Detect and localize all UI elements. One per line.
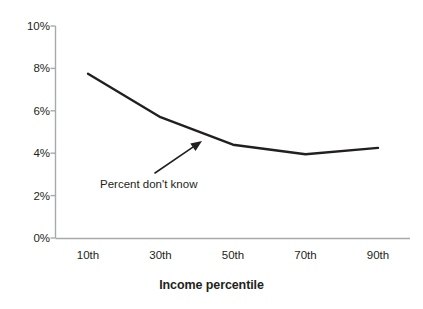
y-axis-tick-label: 4% <box>4 147 50 159</box>
y-axis-tick-label: 2% <box>4 190 50 202</box>
chart-container: 10%8%6%4%2%0% 10th30th50th70th90th Perce… <box>0 0 423 309</box>
x-axis-tick-label: 10th <box>77 248 99 262</box>
annotation-label-percent-dont-know: Percent don't know <box>100 177 197 191</box>
y-axis-tick-label: 6% <box>4 105 50 117</box>
x-axis-tick-label: 90th <box>367 248 389 262</box>
y-axis-tick-label: 8% <box>4 62 50 74</box>
x-axis-tick-label: 30th <box>149 248 171 262</box>
annotation-arrow-icon <box>155 141 202 173</box>
y-axis-tick-label: 0% <box>4 232 50 244</box>
y-axis-tick-marks <box>51 26 56 238</box>
x-axis-title: Income percentile <box>0 278 423 292</box>
x-axis-tick-label: 50th <box>222 248 244 262</box>
y-axis-tick-label: 10% <box>4 20 50 32</box>
series-line-percent-dont-know <box>88 74 378 155</box>
x-axis-tick-labels: 10th30th50th70th90th <box>0 248 423 266</box>
x-axis-tick-label: 70th <box>294 248 316 262</box>
